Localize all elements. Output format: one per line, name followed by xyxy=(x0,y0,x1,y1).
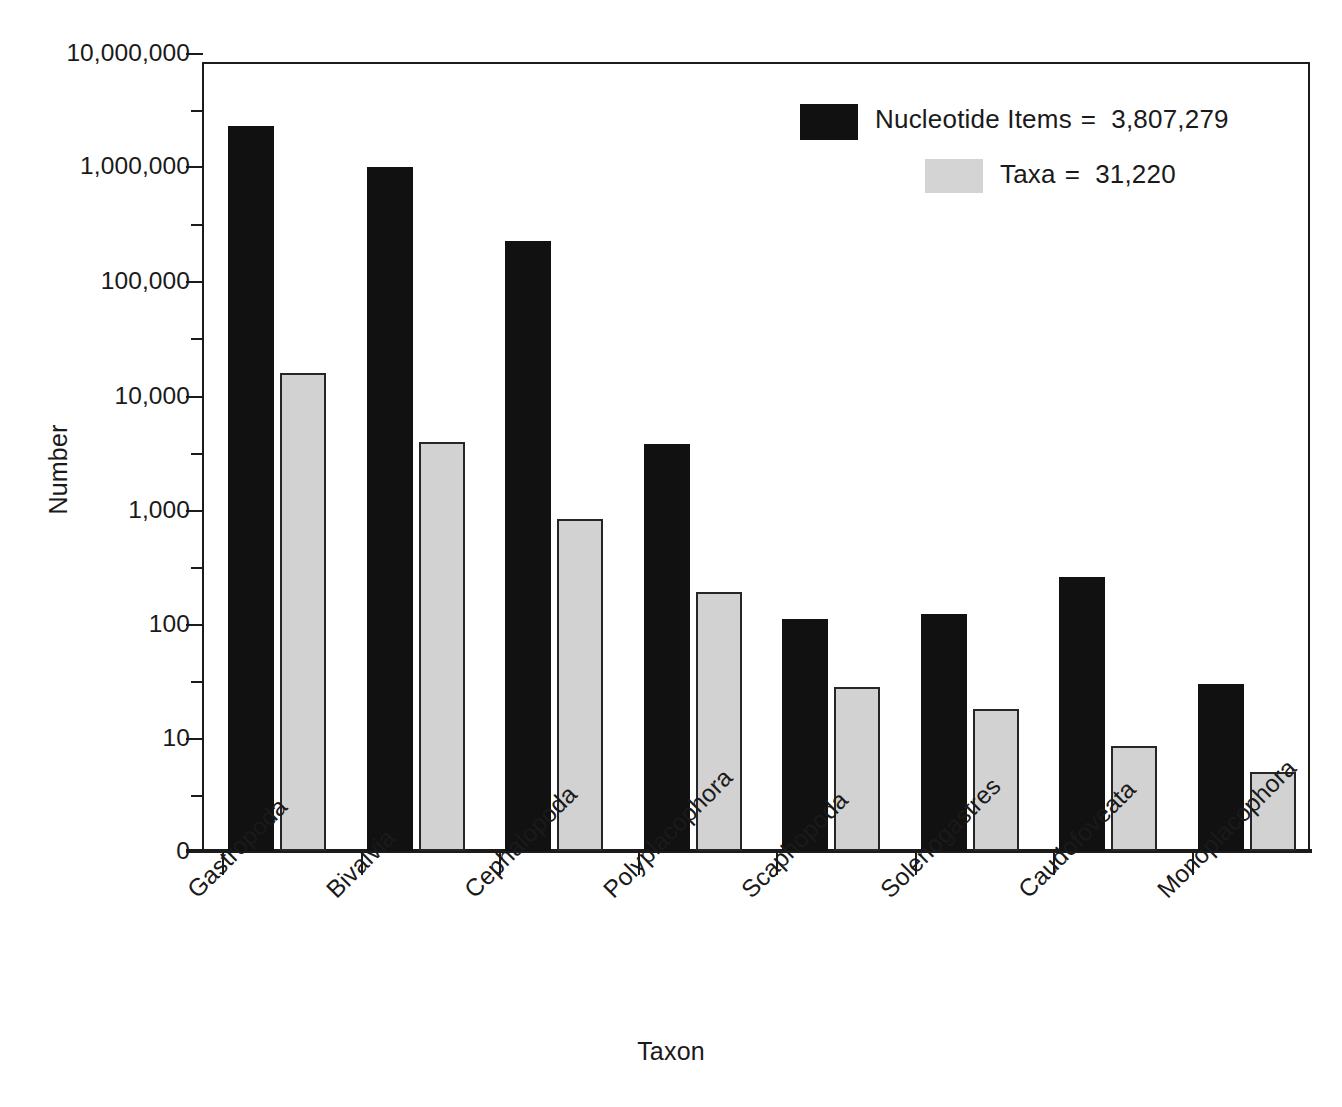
y-tick-label: 1,000 xyxy=(10,498,190,523)
legend-item-nucleotide-items: Nucleotide Items=3,807,279 xyxy=(795,98,1305,150)
y-axis-tick xyxy=(186,396,203,398)
y-tick-label: 10,000 xyxy=(10,384,190,409)
bar-group xyxy=(341,62,480,851)
legend-value: 31,220 xyxy=(1089,159,1176,190)
y-axis-tick xyxy=(186,510,203,512)
bar-nucleotide-items[interactable] xyxy=(505,241,551,851)
bar-nucleotide-items[interactable] xyxy=(228,126,274,851)
legend-swatch-black xyxy=(800,104,858,140)
bar-nucleotide-items[interactable] xyxy=(644,444,690,851)
y-axis-tick xyxy=(186,53,203,55)
x-axis-title: Taxon xyxy=(0,1037,1342,1066)
y-tick-label: 10,000,000 xyxy=(10,41,190,66)
y-axis-tick-labels: 10,000,000 1,000,000 100,000 10,000 1,00… xyxy=(0,0,190,1107)
legend-swatch-gray xyxy=(925,159,983,193)
legend-series-name: Taxa xyxy=(1000,159,1056,189)
y-axis-tick xyxy=(186,281,203,283)
y-axis-tick xyxy=(186,624,203,626)
y-tick-label: 10 xyxy=(10,726,190,751)
bar-taxa[interactable] xyxy=(419,442,465,851)
bar-chart: Number 10,000,000 1,000,000 100,000 10,0… xyxy=(0,0,1342,1107)
legend-series-name: Nucleotide Items xyxy=(875,104,1072,134)
legend-item-taxa: Taxa=31,220 xyxy=(795,150,1305,202)
y-axis-tick xyxy=(186,738,203,740)
y-tick-label: 100,000 xyxy=(10,269,190,294)
bar-group xyxy=(618,62,757,851)
legend: Nucleotide Items=3,807,279 Taxa=31,220 xyxy=(795,98,1305,202)
bar-taxa[interactable] xyxy=(834,687,880,851)
y-tick-label: 100 xyxy=(10,612,190,637)
legend-value: 3,807,279 xyxy=(1105,104,1228,135)
y-tick-label: 0 xyxy=(10,839,190,864)
bar-group xyxy=(479,62,618,851)
legend-label-nucleotide-items: Nucleotide Items=3,807,279 xyxy=(875,104,1229,135)
bar-group xyxy=(202,62,341,851)
legend-label-taxa: Taxa=31,220 xyxy=(1000,159,1176,190)
bar-taxa[interactable] xyxy=(280,373,326,851)
y-tick-label: 1,000,000 xyxy=(10,154,190,179)
legend-equals-sign: = xyxy=(1072,104,1105,135)
bar-nucleotide-items[interactable] xyxy=(367,167,413,851)
y-axis-tick xyxy=(186,166,203,168)
legend-equals-sign: = xyxy=(1056,159,1089,190)
